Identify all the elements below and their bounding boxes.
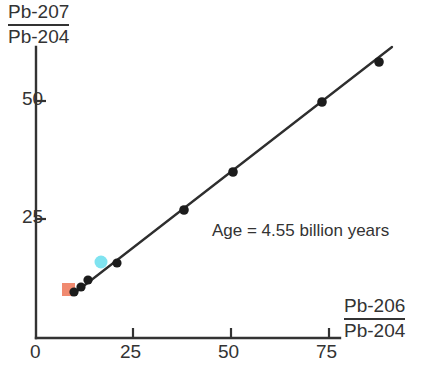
data-point	[179, 205, 189, 215]
x-axis-label-denominator: Pb-204	[344, 321, 405, 342]
axes-group	[36, 47, 340, 338]
age-annotation: Age = 4.55 billion years	[212, 221, 389, 241]
y-axis-label-numerator: Pb-207	[8, 2, 69, 23]
x-tick-marks	[133, 328, 329, 338]
data-point	[228, 167, 238, 177]
data-point	[83, 275, 92, 284]
pb-isochron-chart: Pb-207 Pb-204 Pb-206 Pb-204 50 25 0 25 5…	[0, 0, 422, 368]
x-tick-label-0: 0	[30, 341, 41, 363]
y-tick-label-25: 25	[22, 206, 43, 228]
x-tick-label-50: 50	[218, 341, 239, 363]
data-point	[374, 57, 384, 67]
data-points-black	[69, 57, 383, 296]
data-point	[76, 282, 85, 291]
data-point	[112, 258, 121, 267]
x-tick-label-75: 75	[316, 341, 337, 363]
y-tick-marks	[36, 101, 46, 219]
data-point-circle-cyan	[95, 256, 108, 269]
x-axis-label-numerator: Pb-206	[344, 296, 405, 317]
data-point	[317, 97, 327, 107]
y-axis-label: Pb-207 Pb-204	[8, 2, 69, 47]
y-axis-label-denominator: Pb-204	[8, 27, 69, 48]
x-axis-label: Pb-206 Pb-204	[344, 296, 405, 341]
y-tick-label-50: 50	[22, 88, 43, 110]
x-tick-label-25: 25	[120, 341, 141, 363]
